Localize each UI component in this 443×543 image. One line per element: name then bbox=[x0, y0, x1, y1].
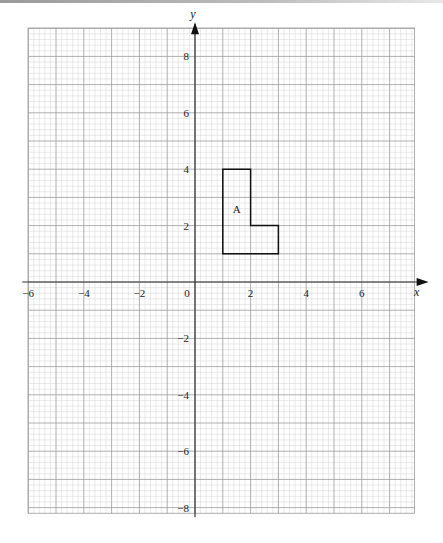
x-tick-label: 0 bbox=[184, 287, 190, 299]
x-tick-label: −6 bbox=[22, 287, 34, 299]
y-tick-label: 6 bbox=[184, 107, 190, 119]
x-tick-label: 6 bbox=[359, 287, 365, 299]
axes bbox=[22, 22, 428, 517]
y-tick-label: 2 bbox=[184, 220, 190, 232]
minor-gridlines bbox=[28, 28, 414, 513]
coordinate-grid: −6−4−20246−8−6−4−22468xy A bbox=[0, 0, 443, 543]
x-tick-label: −4 bbox=[78, 287, 90, 299]
x-tick-label: 4 bbox=[303, 287, 309, 299]
y-axis-name: y bbox=[189, 7, 196, 21]
y-tick-label: −2 bbox=[177, 332, 189, 344]
x-tick-label: −2 bbox=[134, 287, 146, 299]
y-tick-label: −6 bbox=[177, 445, 189, 457]
x-tick-label: 2 bbox=[248, 287, 254, 299]
y-tick-label: −4 bbox=[177, 389, 189, 401]
y-tick-label: 8 bbox=[184, 50, 190, 62]
x-axis-name: x bbox=[413, 285, 420, 299]
tick-labels: −6−4−20246−8−6−4−22468xy bbox=[22, 7, 420, 513]
shape-label: A bbox=[233, 203, 241, 215]
y-tick-label: −8 bbox=[177, 502, 189, 514]
y-tick-label: 4 bbox=[184, 163, 190, 175]
